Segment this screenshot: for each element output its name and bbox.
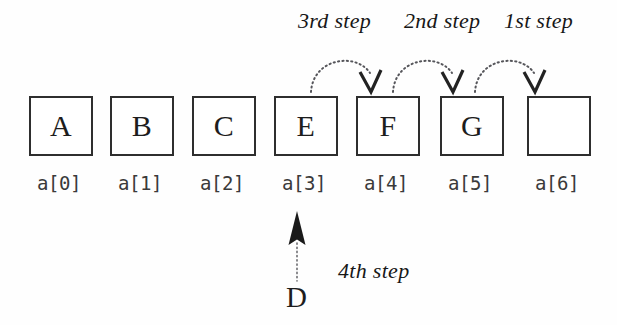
insert-value-label: D — [286, 281, 307, 314]
step-caption-4th: 4th step — [338, 258, 409, 284]
array-index-label-0: a[0] — [27, 172, 91, 194]
array-index-label-1: a[1] — [108, 172, 172, 194]
array-index-label-6: a[6] — [525, 172, 589, 194]
array-cell-2-value: C — [214, 111, 235, 141]
step-caption-3rd: 3rd step — [298, 8, 371, 34]
array-insertion-diagram: 3rd step 2nd step 1st step A B C E F — [0, 0, 617, 325]
insert-pointer-layer — [0, 0, 617, 325]
array-index-label-2: a[2] — [190, 172, 254, 194]
array-cell-6-empty[interactable] — [527, 96, 591, 156]
shift-arrow-3rd-step-icon — [311, 61, 381, 92]
insert-arrow-up-icon — [289, 211, 306, 281]
array-cell-3[interactable]: E — [274, 96, 338, 156]
array-cell-2[interactable]: C — [192, 96, 256, 156]
array-cell-4[interactable]: F — [356, 96, 420, 156]
array-cell-3-value: E — [297, 111, 316, 141]
step-caption-1st: 1st step — [504, 8, 573, 34]
array-cell-5-value: G — [461, 111, 483, 141]
array-index-label-4: a[4] — [354, 172, 418, 194]
shift-arrow-1st-step-icon — [475, 61, 545, 92]
shift-arrows-layer — [0, 0, 617, 325]
array-index-label-3: a[3] — [272, 172, 336, 194]
step-caption-2nd: 2nd step — [404, 8, 480, 34]
array-cell-1[interactable]: B — [110, 96, 174, 156]
array-cell-0[interactable]: A — [29, 96, 93, 156]
array-cell-4-value: F — [379, 111, 396, 141]
array-cell-5[interactable]: G — [440, 96, 504, 156]
array-cell-1-value: B — [132, 111, 153, 141]
shift-arrow-2nd-step-icon — [393, 61, 463, 92]
array-index-label-5: a[5] — [438, 172, 502, 194]
array-cell-0-value: A — [50, 111, 72, 141]
